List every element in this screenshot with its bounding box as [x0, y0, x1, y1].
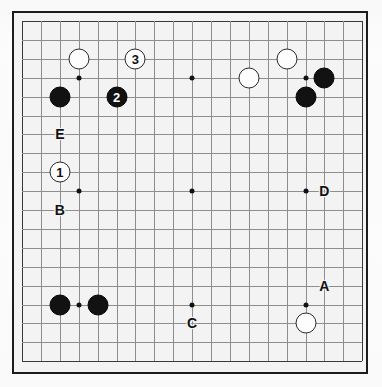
move-marker-3[interactable]: 3 [125, 48, 146, 69]
grid-line-vertical [343, 21, 344, 361]
star-point [303, 75, 308, 80]
point-label-b: B [55, 203, 65, 217]
go-board[interactable]: 123 ABCDE [12, 11, 368, 374]
star-point [190, 189, 195, 194]
grid-line-horizontal [22, 267, 362, 268]
white-stone[interactable] [68, 48, 89, 69]
move-marker-1[interactable]: 1 [49, 162, 70, 183]
grid-line-horizontal [22, 361, 362, 362]
move-marker-2[interactable]: 2 [106, 86, 127, 107]
grid-line-horizontal [22, 342, 362, 343]
black-stone[interactable] [314, 67, 335, 88]
grid-line-horizontal [22, 229, 362, 230]
black-stone[interactable] [295, 86, 316, 107]
move-marker-number: 2 [113, 90, 120, 103]
white-stone[interactable] [276, 48, 297, 69]
black-stone[interactable] [87, 294, 108, 315]
star-point [303, 302, 308, 307]
diagram-page: 123 ABCDE [0, 0, 382, 387]
point-label-c: C [187, 316, 197, 330]
star-point [303, 189, 308, 194]
star-point [190, 75, 195, 80]
black-stone[interactable] [49, 294, 70, 315]
grid-line-vertical [287, 21, 288, 361]
star-point [190, 302, 195, 307]
star-point [76, 302, 81, 307]
white-stone[interactable] [238, 67, 259, 88]
move-marker-number: 3 [132, 52, 139, 65]
grid-line-vertical [268, 21, 269, 361]
point-label-e: E [55, 127, 64, 141]
grid-line-horizontal [22, 286, 362, 287]
grid-line-horizontal [22, 210, 362, 211]
black-stone[interactable] [49, 86, 70, 107]
white-stone[interactable] [295, 313, 316, 334]
grid-line-horizontal [22, 248, 362, 249]
grid-line-vertical [211, 21, 212, 361]
move-marker-number: 1 [56, 166, 63, 179]
star-point [76, 75, 81, 80]
star-point [76, 189, 81, 194]
point-label-a: A [319, 279, 329, 293]
grid-line-vertical [230, 21, 231, 361]
point-label-d: D [319, 184, 329, 198]
grid-line-vertical [362, 21, 363, 361]
